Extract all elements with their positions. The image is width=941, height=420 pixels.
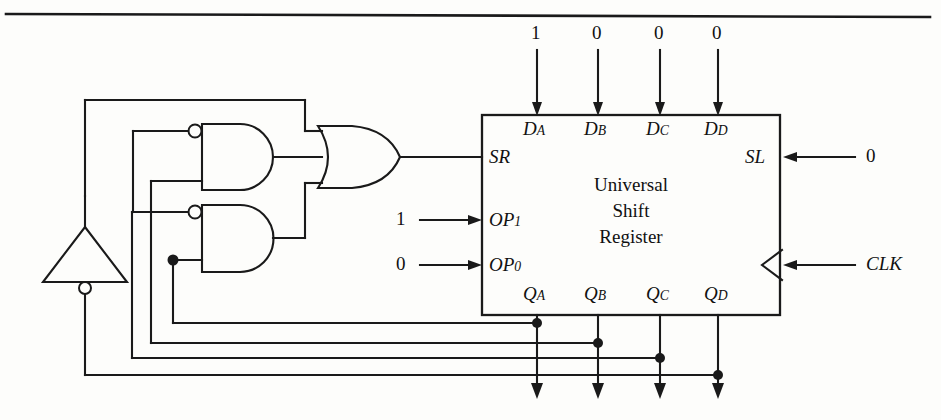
d-input-value-b: 0 — [592, 22, 602, 44]
block-title-line-2: Shift — [551, 198, 711, 224]
junction-dots — [532, 318, 723, 380]
port-label-sr: SR — [489, 146, 510, 168]
port-label-qa: QA — [523, 283, 545, 305]
and-gate-bottom-input-dot — [168, 255, 179, 266]
port-label-qd: QD — [704, 283, 728, 305]
circuit-diagram — [0, 0, 941, 420]
port-label-db: DB — [584, 118, 606, 140]
op0-input-arrow — [420, 260, 482, 270]
d-input-value-a: 1 — [531, 22, 541, 44]
port-label-dd: DD — [704, 118, 728, 140]
block-title: Universal Shift Register — [551, 172, 711, 250]
op1-input-arrow — [420, 215, 482, 225]
port-label-dc: DC — [646, 118, 669, 140]
sl-input-arrow — [783, 152, 855, 162]
and-gate-top — [133, 124, 322, 212]
d-input-value-c: 0 — [654, 22, 664, 44]
block-title-line-3: Register — [551, 224, 711, 250]
port-label-op1: OP1 — [489, 209, 521, 231]
port-label-da: DA — [523, 118, 545, 140]
feedback-vertical-lines — [85, 181, 173, 375]
port-label-op0: OP0 — [489, 254, 521, 276]
d-input-value-d: 0 — [712, 22, 722, 44]
op1-input-value: 1 — [396, 208, 406, 230]
d-input-arrows — [532, 50, 723, 116]
port-label-sl: SL — [745, 146, 765, 168]
sl-input-value: 0 — [866, 145, 876, 167]
clk-input-arrow — [783, 260, 855, 270]
port-label-clk: CLK — [866, 253, 902, 275]
port-label-qb: QB — [584, 283, 606, 305]
or-gate — [318, 126, 482, 188]
port-label-qc: QC — [646, 283, 669, 305]
page-rule — [6, 14, 930, 17]
inverter-gate — [43, 196, 127, 294]
and-gate-bottom — [132, 183, 322, 272]
inverter-output-wire — [85, 100, 322, 196]
figure-canvas: 1 0 0 0 DA DB DC DD QA QB QC QD SR OP1 O… — [0, 0, 941, 420]
block-title-line-1: Universal — [551, 172, 711, 198]
op0-input-value: 0 — [396, 253, 406, 275]
feedback-horizontal-lines — [85, 323, 718, 375]
